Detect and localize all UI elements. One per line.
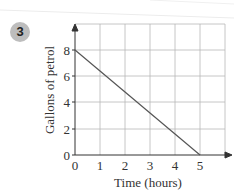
svg-text:0: 0 <box>64 148 71 163</box>
svg-text:6: 6 <box>64 69 71 84</box>
data-line <box>75 50 200 155</box>
svg-text:8: 8 <box>64 43 71 58</box>
svg-text:2: 2 <box>64 122 71 137</box>
svg-text:3: 3 <box>147 158 154 173</box>
svg-text:4: 4 <box>172 158 179 173</box>
y-axis-label: Gallons of petrol <box>42 46 57 134</box>
svg-text:1: 1 <box>97 158 104 173</box>
y-tick-labels: 8 6 4 2 0 <box>64 43 71 163</box>
svg-text:4: 4 <box>64 95 71 110</box>
svg-text:5: 5 <box>197 158 204 173</box>
x-tick-labels: 0 1 2 3 4 5 <box>72 158 204 173</box>
svg-text:0: 0 <box>72 158 79 173</box>
svg-text:2: 2 <box>122 158 129 173</box>
x-axis-label: Time (hours) <box>114 175 182 190</box>
grid <box>75 24 225 155</box>
axes <box>72 24 232 158</box>
line-chart: 8 6 4 2 0 0 1 2 3 4 5 Time (hours) Gallo… <box>0 0 234 196</box>
